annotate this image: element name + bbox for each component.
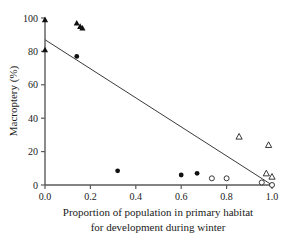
data-point-open-circle-2	[259, 180, 264, 185]
y-tick-label-20: 20	[28, 146, 38, 157]
y-tick-label-80: 80	[28, 46, 38, 57]
x-axis-title-line2: for development during winter	[91, 221, 226, 233]
y-axis-title: Macroptery (%)	[7, 65, 20, 136]
x-tick-label-06: 0.6	[175, 191, 188, 202]
x-tick-label-00: 0.0	[39, 191, 52, 202]
data-point-open-circle-0	[209, 176, 214, 181]
data-point-open-circle-3	[270, 183, 275, 188]
data-point-filled-circle-0	[74, 54, 79, 59]
data-point-filled-circle-2	[179, 173, 184, 178]
y-tick-label-100: 100	[23, 13, 38, 24]
y-tick-label-40: 40	[28, 113, 38, 124]
figure-container: 0 20 40 60 80 100 0.0 0.2 0.4 0.6 0.8 1.…	[0, 0, 292, 244]
x-tick-label-10: 1.0	[266, 191, 279, 202]
scatter-plot: 0 20 40 60 80 100 0.0 0.2 0.4 0.6 0.8 1.…	[0, 0, 292, 244]
x-tick-label-02: 0.2	[84, 191, 97, 202]
y-tick-label-60: 60	[28, 79, 38, 90]
data-point-filled-circle-3	[195, 171, 200, 176]
x-axis-title-line1: Proportion of population in primary habi…	[63, 206, 253, 218]
data-point-filled-circle-1	[115, 168, 120, 173]
x-tick-label-04: 0.4	[130, 191, 143, 202]
data-point-open-circle-1	[224, 176, 229, 181]
x-tick-label-08: 0.8	[220, 191, 233, 202]
y-tick-label-0: 0	[33, 180, 38, 191]
